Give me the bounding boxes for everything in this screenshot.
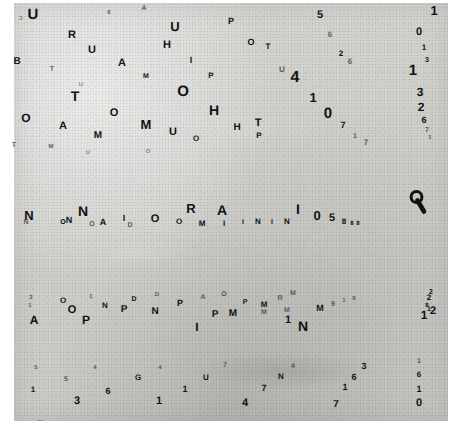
character-mark: N — [298, 319, 308, 333]
character-mark: M — [229, 309, 237, 319]
character-mark: 1 — [409, 63, 417, 78]
character-mark: H — [209, 103, 219, 117]
character-mark: M — [316, 304, 324, 313]
character-mark: T — [71, 89, 80, 103]
character-mark: A — [30, 314, 39, 326]
paper-margin-bottom — [0, 421, 462, 443]
character-mark: U — [203, 374, 209, 382]
character-mark: 1 — [416, 385, 421, 394]
character-mark: H — [163, 40, 171, 51]
character-mark: D — [155, 292, 159, 298]
character-mark: 1 — [417, 358, 421, 365]
character-mark: 9 — [352, 296, 355, 302]
character-mark: N — [255, 218, 261, 226]
character-mark: O — [177, 84, 189, 99]
character-mark: 5 — [317, 10, 323, 21]
character-mark: N — [284, 218, 290, 226]
character-mark: O — [110, 108, 119, 119]
character-mark: U — [169, 127, 177, 138]
character-mark: R — [68, 30, 76, 41]
character-mark: 1 — [28, 303, 31, 309]
character-mark: R — [277, 295, 282, 302]
character-mark: D — [131, 296, 136, 303]
character-mark: 7 — [364, 139, 368, 147]
character-mark: N — [66, 216, 73, 225]
character-mark: T — [50, 66, 54, 73]
character-mark: H — [233, 123, 240, 133]
character-mark: 0 — [324, 106, 332, 121]
character-mark: 7 — [223, 362, 227, 369]
character-mark: 1 — [421, 309, 428, 321]
character-mark: 8 — [342, 218, 346, 226]
character-mark: 1 — [309, 91, 316, 104]
character-mark: U — [86, 150, 90, 156]
character-mark: 2 — [418, 101, 425, 113]
character-mark: 5 — [34, 365, 37, 371]
character-mark: 6 — [417, 371, 421, 379]
character-mark: 1 — [156, 396, 162, 407]
character-mark: 5 — [329, 213, 335, 224]
character-mark: P — [82, 314, 90, 326]
character-mark: 4 — [93, 365, 96, 371]
character-mark: M — [284, 307, 290, 314]
character-mark: 1 — [89, 294, 92, 300]
character-mark: T — [12, 142, 16, 149]
character-mark: P — [228, 17, 234, 26]
character-mark: 1 — [31, 386, 35, 394]
character-mark: 6 — [348, 58, 352, 66]
character-mark: R — [186, 202, 195, 215]
character-mark: 1 — [422, 44, 426, 52]
character-mark: 3 — [19, 16, 22, 22]
character-mark: O — [146, 149, 151, 155]
character-mark: N — [78, 204, 88, 218]
character-mark: 1 — [182, 385, 187, 394]
character-mark: 6 — [107, 10, 110, 16]
character-mark: U — [28, 7, 39, 22]
character-mark: I — [223, 220, 225, 228]
character-mark: 7 — [425, 127, 429, 134]
character-mark: 4 — [242, 398, 248, 409]
character-mark: 1 — [430, 4, 437, 17]
character-mark: A — [59, 121, 67, 132]
character-mark: I — [123, 214, 126, 223]
character-mark: U — [279, 66, 285, 74]
character-mark: 6 — [328, 31, 332, 39]
character-mark: 3 — [417, 86, 424, 98]
character-mark: I — [195, 321, 198, 333]
character-mark: P — [256, 132, 261, 140]
character-mark: 0 — [416, 398, 422, 409]
character-mark: G — [135, 374, 141, 382]
character-mark: P — [121, 305, 128, 315]
character-mark: 6 — [351, 373, 356, 382]
character-mark: O — [151, 214, 160, 225]
character-mark: M — [141, 118, 152, 131]
character-mark: N — [278, 373, 284, 381]
character-mark: 5 — [64, 376, 68, 383]
character-mark: P — [208, 72, 213, 80]
character-mark: 1 — [285, 315, 291, 326]
character-mark: 7 — [261, 384, 266, 393]
character-mark: 8 — [356, 221, 359, 227]
character-mark: O — [68, 305, 77, 316]
character-mark: 4 — [291, 363, 295, 370]
character-mark: O — [60, 297, 66, 305]
character-mark: 3 — [29, 295, 32, 301]
character-mark: P — [177, 299, 183, 308]
character-mark: 2 — [339, 50, 343, 58]
character-mark: O — [176, 218, 182, 226]
character-mark: O — [193, 135, 199, 143]
character-mark: 8 — [350, 221, 353, 227]
character-mark: 2 — [430, 306, 436, 317]
character-mark: 1 — [342, 383, 347, 392]
character-mark: T — [255, 118, 262, 129]
character-mark: M — [143, 73, 149, 80]
character-mark: A — [217, 203, 227, 217]
character-mark: O — [247, 38, 254, 47]
character-mark: 7 — [333, 400, 339, 410]
scanned-plate-page: U3A651PUR60OTHU213BAIU61TMP4UOT31HO20OMT… — [0, 0, 462, 443]
character-mark: A — [118, 58, 126, 69]
q-glyph-icon — [408, 189, 430, 215]
character-mark: 1 — [342, 298, 345, 304]
character-mark: M — [94, 131, 102, 141]
character-mark: A — [200, 294, 205, 301]
